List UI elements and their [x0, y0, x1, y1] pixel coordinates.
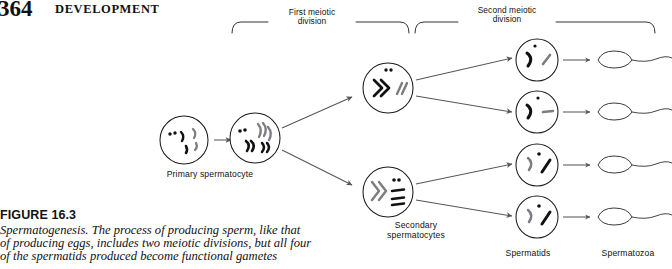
cell-secondary-spermatocyte-upper — [363, 63, 413, 113]
arrow-meiosis2-2 — [416, 96, 512, 112]
cell-spermatozoon-4 — [598, 208, 672, 225]
bracket-label-first-line2: division — [272, 17, 352, 26]
arrow-meiosis1-lower — [282, 150, 352, 185]
cell-spermatozoon-2 — [598, 103, 672, 120]
cell-spermatozoon-1 — [598, 51, 672, 68]
figure-page: 364 DEVELOPMENT — [0, 0, 672, 269]
cell-spermatozoon-3 — [598, 156, 672, 173]
arrow-meiosis2-1 — [416, 58, 512, 80]
bracket-label-first-meiotic-division: First meiotic division — [272, 8, 352, 26]
cell-spermatid-2 — [516, 91, 558, 133]
cell-primary-spermatocyte-unreplicated — [160, 116, 208, 164]
arrow-meiosis1-upper — [282, 97, 352, 128]
cell-spermatid-1 — [516, 39, 558, 81]
stage-label-primary-spermatocyte: Primary spermatocyte — [140, 170, 280, 180]
cell-secondary-spermatocyte-lower — [363, 167, 413, 217]
stage-label-spermatids: Spermatids — [490, 249, 566, 259]
arrow-meiosis2-4 — [416, 200, 512, 216]
cell-spermatid-4 — [516, 196, 558, 238]
figure-caption: Spermatogenesis. The process of producin… — [0, 224, 330, 264]
cell-spermatid-3 — [516, 144, 558, 186]
bracket-label-second-meiotic-division: Second meiotic division — [462, 6, 552, 24]
stage-label-secondary-line2: spermatocytes — [370, 231, 462, 241]
bracket-label-second-line2: division — [462, 15, 552, 24]
stage-label-spermatozoa: Spermatozoa — [588, 249, 668, 259]
arrow-meiosis2-3 — [416, 164, 512, 184]
stage-label-secondary-spermatocytes: Secondary spermatocytes — [370, 221, 462, 240]
cell-primary-spermatocyte-replicated — [230, 113, 280, 163]
figure-caption-line-3: of the spermatids produced become functi… — [0, 250, 330, 263]
figure-number: FIGURE 16.3 — [0, 208, 76, 222]
